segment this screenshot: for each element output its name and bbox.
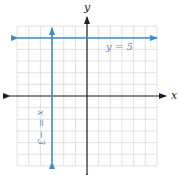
x-axis-label: x: [171, 89, 178, 102]
coordinate-plane: x y y = 5 x = −3: [0, 0, 179, 175]
label-y-equals-5: y = 5: [105, 41, 133, 52]
y-axis-label: y: [83, 1, 91, 14]
label-x-equals-neg3: x = −3: [36, 110, 47, 145]
